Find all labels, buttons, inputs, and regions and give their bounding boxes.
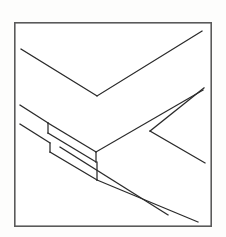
- line-drawing-figure: [0, 0, 226, 237]
- drawing-frame: [15, 23, 211, 226]
- drawing-canvas: [0, 0, 226, 237]
